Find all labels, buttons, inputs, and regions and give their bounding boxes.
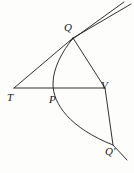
point-label-P: P — [49, 94, 56, 105]
geometry-figure: T P V Q Q′ — [0, 0, 134, 173]
point-label-T: T — [7, 92, 13, 103]
point-label-Q: Q — [64, 22, 72, 33]
point-label-Q-prime: Q′ — [105, 146, 115, 157]
chord-QQprime — [73, 38, 127, 160]
secondary-tangent-line — [70, 2, 124, 41]
tangent-line-TQ — [14, 4, 131, 88]
point-label-V: V — [101, 80, 108, 91]
